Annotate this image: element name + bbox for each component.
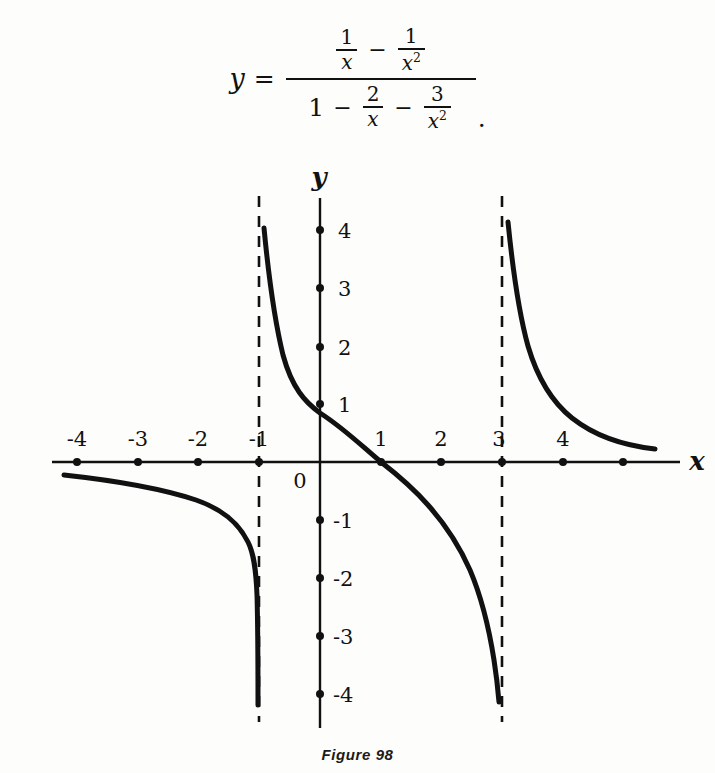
curve-middle-branch <box>264 228 499 702</box>
y-tick-label-minus-4: -4 <box>333 683 353 707</box>
numerator-term-2-den-exponent: 2 <box>413 50 421 65</box>
denominator-term-2-den-base: x <box>428 108 439 132</box>
x-tick-label-minus-3: -3 <box>128 427 148 451</box>
equation-lhs: y <box>229 63 253 94</box>
curve-left-branch <box>64 475 258 705</box>
x-tick-dot-minus-4 <box>73 458 81 466</box>
y-tick-dot-1 <box>316 400 324 408</box>
y-tick-dot-minus-2 <box>316 574 324 582</box>
x-tick-label-2: 2 <box>434 427 447 451</box>
equation-period: . <box>476 104 486 135</box>
x-tick-label-minus-1: -1 <box>249 427 269 451</box>
graph-canvas: -4 -3 -2 -1 1 2 3 4 4 3 2 1 -1 -2 -3 -4 … <box>0 150 715 740</box>
denominator-term-1: 2 x <box>363 83 384 131</box>
denominator-term-2-num: 3 <box>427 83 448 106</box>
denominator-operator-2: − <box>385 95 421 120</box>
x-tick-dot-4 <box>559 458 567 466</box>
y-tick-label-1: 1 <box>338 393 351 417</box>
numerator-term-2-den-base: x <box>402 51 413 75</box>
equation-expression: y = 1 x − 1 x2 <box>229 22 485 135</box>
y-tick-label-minus-3: -3 <box>333 625 353 649</box>
numerator-term-1-num: 1 <box>336 26 357 49</box>
y-tick-label-3: 3 <box>338 277 351 301</box>
y-tick-dot-minus-4 <box>316 690 324 698</box>
x-tick-label-minus-2: -2 <box>188 427 208 451</box>
equation-block: y = 1 x − 1 x2 <box>0 22 715 135</box>
y-tick-dot-minus-3 <box>316 632 324 640</box>
denominator-term-2-den-exponent: 2 <box>439 108 447 123</box>
graph-figure: -4 -3 -2 -1 1 2 3 4 4 3 2 1 -1 -2 -3 -4 … <box>0 150 715 740</box>
x-tick-label-1: 1 <box>374 427 387 451</box>
denominator-term-1-num: 2 <box>363 83 384 106</box>
numerator-term-2: 1 x2 <box>398 25 425 75</box>
x-tick-dot-minus-3 <box>134 458 142 466</box>
y-tick-dot-minus-1 <box>316 516 324 524</box>
y-tick-label-2: 2 <box>338 336 351 360</box>
numerator-term-1-den: x <box>337 51 356 74</box>
y-tick-label-minus-2: -2 <box>333 567 353 591</box>
numerator-term-1: 1 x <box>336 26 357 74</box>
numerator-term-2-den: x2 <box>398 50 425 75</box>
fraction-numerator: 1 x − 1 x2 <box>324 22 436 78</box>
y-axis-label: y <box>310 162 328 192</box>
denominator-term-2-den: x2 <box>424 108 451 133</box>
denominator-term-2: 3 x2 <box>424 83 451 133</box>
denominator-operator-1: − <box>324 95 360 120</box>
y-tick-dot-2 <box>316 343 324 351</box>
y-tick-dot-3 <box>316 284 324 292</box>
figure-caption: Figure 98 <box>0 746 715 763</box>
origin-label: 0 <box>293 469 306 493</box>
x-tick-dot-3 <box>498 458 506 466</box>
denominator-term-1-den: x <box>363 108 382 131</box>
numerator-term-2-num: 1 <box>401 25 422 48</box>
x-tick-label-4: 4 <box>556 427 569 451</box>
fraction-denominator: 1 − 2 x − 3 x2 <box>298 80 463 136</box>
x-tick-label-3: 3 <box>492 427 505 451</box>
x-tick-dot-2 <box>437 458 445 466</box>
numerator-operator: − <box>359 37 395 62</box>
curve-right-branch <box>508 222 655 449</box>
x-tick-dot-5 <box>619 458 627 466</box>
denominator-term-0: 1 <box>308 93 324 122</box>
y-tick-dot-4 <box>316 226 324 234</box>
x-tick-dot-minus-2 <box>194 458 202 466</box>
equation-relation: = <box>254 64 286 93</box>
y-tick-label-4: 4 <box>338 219 351 243</box>
x-tick-dot-minus-1 <box>255 458 263 466</box>
main-fraction: 1 x − 1 x2 1 − 2 <box>286 22 476 135</box>
y-tick-label-minus-1: -1 <box>333 509 353 533</box>
figure-page: y = 1 x − 1 x2 <box>0 0 715 773</box>
x-axis-label: x <box>688 446 705 476</box>
x-tick-label-minus-4: -4 <box>67 427 87 451</box>
